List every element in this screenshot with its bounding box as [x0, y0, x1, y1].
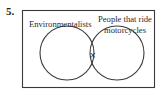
intersection-marker-x-icon: × [90, 51, 97, 60]
environmentalists-circle [40, 26, 94, 80]
motorcycle-riders-label-line1: People that ride [98, 14, 152, 24]
environmentalists-label: Environmentalists [29, 19, 92, 29]
venn-diagram: Environmentalists People that ride motor… [0, 0, 157, 96]
motorcycle-riders-label-line2: motorcycles [104, 25, 147, 35]
